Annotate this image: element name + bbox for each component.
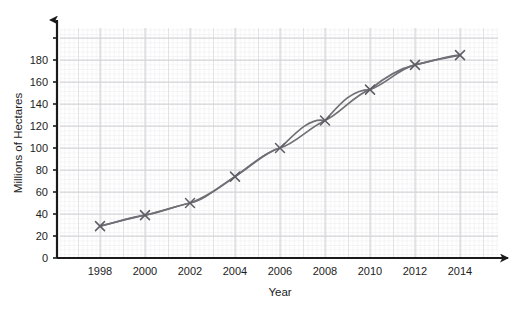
x-tick-labels: 1998 2000 2002 2004 2006 2008 2010 2012 … bbox=[88, 265, 472, 277]
x-tick-label-2000: 2000 bbox=[133, 265, 157, 277]
y-tick-label-40: 40 bbox=[36, 208, 48, 220]
y-axis-title: Millions of Hectares bbox=[12, 93, 24, 194]
y-tick-label-20: 20 bbox=[36, 230, 48, 242]
x-tick-label-2014: 2014 bbox=[448, 265, 472, 277]
plot-grid-area bbox=[60, 28, 498, 258]
line-chart: 0 20 40 60 80 100 120 140 160 180 1998 2… bbox=[0, 0, 529, 309]
y-tick-label-160: 160 bbox=[30, 76, 48, 88]
y-tick-labels: 0 20 40 60 80 100 120 140 160 180 bbox=[30, 54, 48, 264]
x-tick-label-1998: 1998 bbox=[88, 265, 112, 277]
y-tick-label-0: 0 bbox=[42, 252, 48, 264]
x-tick-label-2012: 2012 bbox=[403, 265, 427, 277]
y-tick-label-180: 180 bbox=[30, 54, 48, 66]
y-tick-label-80: 80 bbox=[36, 164, 48, 176]
x-tick-label-2004: 2004 bbox=[223, 265, 247, 277]
x-tick-label-2006: 2006 bbox=[268, 265, 292, 277]
x-tick-label-2008: 2008 bbox=[313, 265, 337, 277]
x-axis-title: Year bbox=[268, 286, 291, 298]
x-tick-label-2010: 2010 bbox=[358, 265, 382, 277]
x-tick-label-2002: 2002 bbox=[178, 265, 202, 277]
y-tick-label-140: 140 bbox=[30, 98, 48, 110]
y-tick-label-100: 100 bbox=[30, 142, 48, 154]
y-tick-label-60: 60 bbox=[36, 186, 48, 198]
y-tick-label-120: 120 bbox=[30, 120, 48, 132]
chart-page: 0 20 40 60 80 100 120 140 160 180 1998 2… bbox=[0, 0, 529, 309]
